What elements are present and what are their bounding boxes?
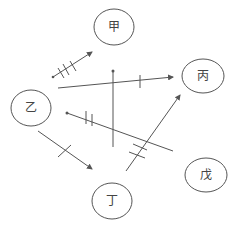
edge-start-dot [66, 112, 69, 115]
node-wu: 戊 [185, 158, 227, 192]
node-label: 戊 [200, 168, 212, 182]
node-jia: 甲 [94, 9, 134, 45]
node-ding: 丁 [92, 183, 132, 219]
diagram-canvas: 甲 丙 乙 戊 丁 [0, 0, 234, 235]
edge-jia-region [52, 52, 92, 78]
edge-from-wu [66, 111, 174, 151]
node-yi: 乙 [11, 90, 51, 126]
node-bing: 丙 [182, 59, 224, 93]
edge-line [67, 113, 173, 151]
edge-to-bing [58, 75, 173, 88]
node-label: 甲 [108, 20, 120, 34]
edge-line [126, 95, 180, 171]
edge-vertical [112, 70, 115, 148]
edge-ding-to-bing [126, 95, 180, 171]
edge-start-dot [52, 76, 55, 79]
node-label: 丁 [106, 194, 118, 208]
tick-mark [129, 152, 145, 158]
node-label: 乙 [25, 101, 37, 115]
edge-start-dot [112, 70, 115, 73]
edge-yi-to-ding [38, 131, 92, 169]
node-label: 丙 [197, 69, 209, 83]
edge-line [58, 77, 173, 88]
